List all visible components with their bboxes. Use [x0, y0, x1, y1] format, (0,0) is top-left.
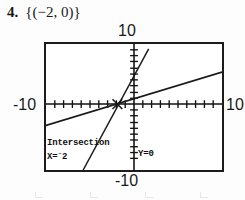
axis-label-right: 10: [226, 96, 244, 114]
bleed-mark: [200, 192, 208, 198]
bleed-mark: [35, 192, 43, 198]
graph-plot: [46, 44, 222, 170]
worksheet-page: 4. {(−2, 0)}: [0, 0, 245, 200]
calculator-screen: [44, 42, 224, 172]
answer-line: 4. {(−2, 0)}: [7, 4, 81, 21]
axis-label-left: -10: [13, 96, 36, 114]
bleed-mark: [90, 192, 98, 198]
intersection-x-prefix: X=: [47, 152, 57, 162]
intersection-x-value: 2: [62, 152, 67, 162]
bleed-mark: [145, 192, 153, 198]
answer-item-number: 4.: [7, 4, 18, 21]
intersection-readout-title: Intersection: [47, 139, 109, 148]
intersection-y-readout: Y=0: [138, 150, 154, 159]
answer-solution-set: {(−2, 0)}: [25, 4, 80, 21]
axis-label-bottom: -10: [115, 172, 138, 190]
axis-label-top: 10: [118, 22, 136, 40]
page-bleed-marks: [0, 192, 245, 200]
intersection-x-readout: X=⁻2: [47, 150, 67, 162]
